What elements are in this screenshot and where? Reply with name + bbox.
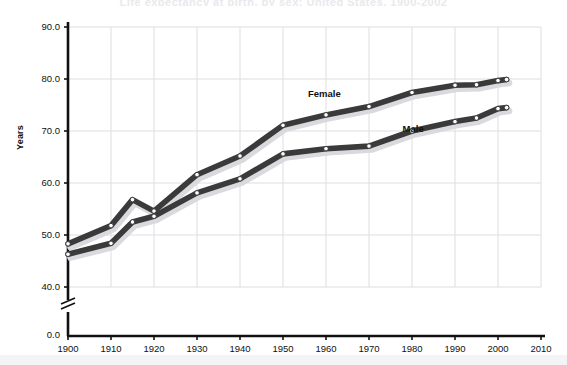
data-point-marker	[238, 154, 243, 159]
data-point-marker	[66, 242, 71, 247]
x-tick-label: 2010	[521, 343, 561, 354]
series-annotation-female: Female	[308, 88, 341, 99]
x-tick-label: 1930	[177, 343, 217, 354]
data-point-marker	[109, 223, 114, 228]
x-tick-label: 1960	[306, 343, 346, 354]
y-tick-label: 40.0	[26, 281, 60, 292]
data-point-marker	[238, 177, 243, 182]
data-point-marker	[504, 105, 509, 110]
data-point-marker	[474, 82, 479, 87]
x-tick-label: 1970	[349, 343, 389, 354]
data-point-marker	[130, 197, 135, 202]
series-annotation-male: Male	[403, 123, 424, 134]
x-tick-label: 1910	[91, 343, 131, 354]
footer-band	[0, 355, 567, 365]
x-tick-label: 1940	[220, 343, 260, 354]
data-point-marker	[324, 113, 329, 118]
data-point-marker	[367, 144, 372, 149]
data-point-marker	[367, 104, 372, 109]
data-point-marker	[66, 252, 71, 257]
y-tick-label: 50.0	[26, 229, 60, 240]
data-point-marker	[410, 90, 415, 95]
data-point-marker	[195, 172, 200, 177]
plot-area	[0, 0, 567, 365]
data-point-marker	[453, 83, 458, 88]
x-tick-label: 1980	[392, 343, 432, 354]
data-point-marker	[324, 146, 329, 151]
y-tick-label: 60.0	[26, 177, 60, 188]
x-tick-label: 1920	[134, 343, 174, 354]
series-shadow-male	[71, 111, 510, 258]
data-point-marker	[195, 191, 200, 196]
data-point-marker	[109, 241, 114, 246]
chart-title: Life expectancy at birth, by sex: United…	[0, 0, 567, 6]
y-axis-title: Years	[15, 90, 25, 150]
y-tick-label: 90.0	[26, 21, 60, 32]
x-tick-label: 1990	[435, 343, 475, 354]
data-point-marker	[281, 152, 286, 157]
data-point-marker	[504, 77, 509, 82]
data-point-marker	[152, 214, 157, 219]
data-point-marker	[130, 220, 135, 225]
y-tick-label: 80.0	[26, 73, 60, 84]
x-tick-label: 2000	[478, 343, 518, 354]
y-tick-label: 70.0	[26, 125, 60, 136]
data-point-marker	[496, 78, 501, 83]
y-tick-label-zero: 0.0	[26, 329, 60, 340]
data-point-marker	[453, 119, 458, 124]
x-tick-label: 1950	[263, 343, 303, 354]
x-tick-label: 1900	[48, 343, 88, 354]
data-point-marker	[496, 106, 501, 111]
data-point-marker	[474, 116, 479, 121]
life-expectancy-line-chart: Life expectancy at birth, by sex: United…	[0, 0, 567, 365]
data-point-marker	[281, 123, 286, 128]
